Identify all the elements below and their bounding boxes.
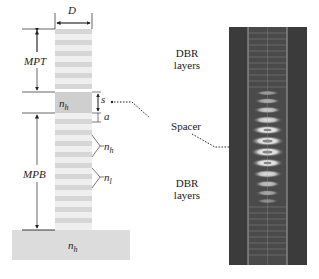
spacer-thickness-label: s [101, 93, 105, 105]
pillar-diameter-label: D [68, 4, 76, 16]
low-index-label: nl [104, 171, 112, 188]
spacer-index-label: nh [59, 97, 69, 114]
bottom-mirror-label: MPB [23, 168, 46, 180]
micropillar-schematic: D MPT MPB nh s a nh nl nh [0, 0, 160, 279]
bottom-dbr-label: DBR layers [172, 177, 202, 201]
high-index-label: nh [104, 140, 114, 157]
spacer-label: Spacer [166, 120, 206, 132]
intensity-pattern [229, 27, 307, 265]
bottom-dbr-layers [55, 113, 92, 230]
top-mirror-label: MPT [24, 55, 46, 67]
top-dbr-layers [55, 29, 92, 89]
layer-thickness-label: a [104, 110, 110, 122]
substrate-index-label: nh [68, 239, 78, 256]
top-dbr-label: DBR layers [172, 47, 202, 71]
field-intensity-image [229, 27, 307, 265]
